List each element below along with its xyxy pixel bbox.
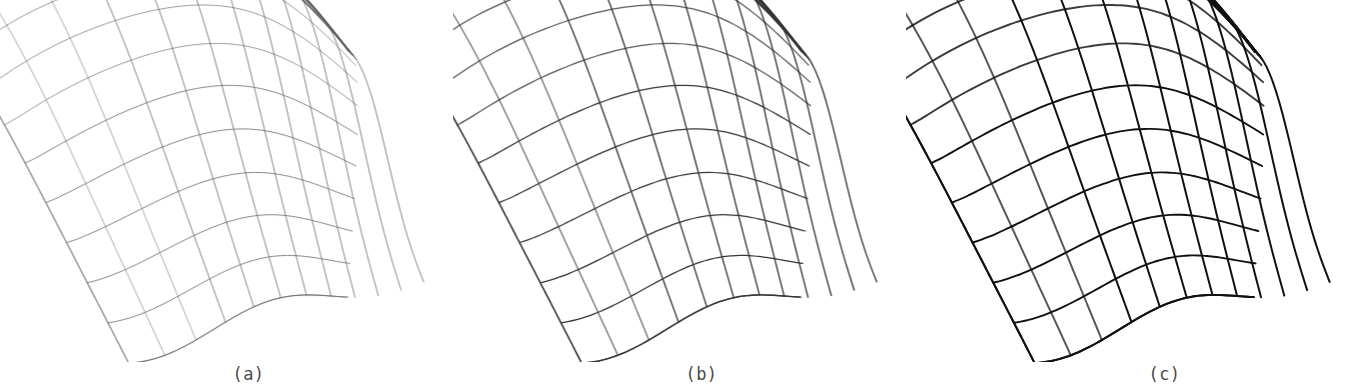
- mesh-isoline-u: [163, 0, 281, 298]
- mesh-isoline-u: [974, 0, 1131, 322]
- panel-caption-a: (a): [0, 362, 475, 386]
- mesh-isoline-v: [910, 43, 1263, 124]
- mesh-isoline-v: [973, 172, 1261, 242]
- mesh-isoline-u: [0, 0, 165, 355]
- mesh-isoline-u: [775, 17, 854, 290]
- mesh-isoline-u: [0, 0, 129, 362]
- mesh-isoline-u: [802, 51, 877, 282]
- mesh-isoline-v: [0, 0, 355, 65]
- mesh-isoline-v: [4, 43, 357, 124]
- mesh-isoline-u: [906, 0, 1035, 362]
- panel-a: (a): [0, 0, 453, 392]
- mesh-isoline-u: [202, 0, 306, 295]
- mesh-isoline-u: [616, 0, 734, 298]
- wireframe-mesh: [0, 0, 424, 362]
- wireframe-plot-b: [453, 0, 906, 362]
- mesh-isoline-u: [521, 0, 678, 322]
- mesh-isoline-v: [906, 0, 1261, 65]
- panel-caption-b: (b): [453, 362, 928, 386]
- mesh-isoline-v: [67, 172, 355, 242]
- mesh-ridge-line: [0, 0, 352, 54]
- mesh-ridge-line: [0, 0, 354, 56]
- mesh-isoline-u: [322, 17, 401, 290]
- mesh-isoline-u: [1255, 51, 1330, 282]
- panel-b: (b): [453, 0, 906, 392]
- mesh-isoline-v: [561, 255, 803, 322]
- panel-c: (c): [906, 0, 1359, 392]
- mesh-isoline-u: [906, 0, 1071, 355]
- mesh-isoline-u: [453, 0, 618, 355]
- mesh-isoline-v: [108, 255, 350, 322]
- mesh-ridge-line: [0, 0, 353, 55]
- wireframe-mesh: [906, 0, 1330, 362]
- mesh-ridge-line: [906, 0, 1256, 53]
- mesh-isoline-v: [453, 0, 808, 65]
- mesh-isoline-v: [478, 85, 810, 163]
- mesh-isoline-v: [457, 43, 810, 124]
- mesh-ridge-line: [0, 0, 355, 58]
- mesh-isoline-u: [266, 0, 354, 297]
- wireframe-mesh: [453, 0, 877, 362]
- mesh-ridge-line: [0, 0, 356, 60]
- mesh-isoline-u: [349, 51, 424, 282]
- wireframe-plot-a: [0, 0, 453, 362]
- mesh-left-edge: [453, 0, 582, 362]
- mesh-isoline-v: [0, 0, 353, 55]
- mesh-isoline-u: [68, 0, 225, 322]
- mesh-isoline-v: [931, 85, 1263, 163]
- mesh-isoline-v: [0, 0, 347, 49]
- mesh-left-edge: [0, 0, 129, 362]
- mesh-isoline-u: [655, 0, 759, 295]
- mesh-isoline-u: [453, 0, 582, 362]
- mesh-left-edge: [906, 0, 1035, 362]
- mesh-ridge-line: [453, 0, 809, 60]
- wireframe-plot-c: [906, 0, 1359, 362]
- mesh-ridge-line: [453, 0, 808, 58]
- mesh-isoline-u: [236, 0, 331, 296]
- mesh-isoline-u: [1069, 0, 1187, 298]
- panel-caption-c: (c): [906, 362, 1359, 386]
- mesh-ridge-line: [453, 0, 803, 53]
- mesh-isoline-v: [520, 172, 808, 242]
- mesh-ridge-line: [0, 0, 349, 52]
- mesh-ridge-line: [0, 0, 350, 53]
- mesh-isoline-u: [689, 0, 784, 296]
- mesh-isoline-v: [25, 85, 357, 163]
- mesh-isoline-u: [1228, 17, 1307, 290]
- mesh-crest-edge: [0, 0, 349, 51]
- mesh-ridge-line: [906, 0, 1261, 58]
- mesh-ridge-line: [906, 0, 1262, 60]
- figure-container: (a) (b) (c): [0, 0, 1359, 392]
